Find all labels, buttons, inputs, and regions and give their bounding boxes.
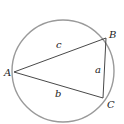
- diagram-canvas: A B C c a b: [0, 0, 124, 124]
- vertex-b-label: B: [108, 29, 116, 40]
- side-c-label: c: [56, 39, 62, 50]
- side-a-label: a: [95, 64, 101, 75]
- side-a: [103, 38, 106, 98]
- vertex-a-label: A: [3, 67, 11, 78]
- vertex-c-label: C: [107, 99, 115, 110]
- side-b-label: b: [55, 88, 61, 99]
